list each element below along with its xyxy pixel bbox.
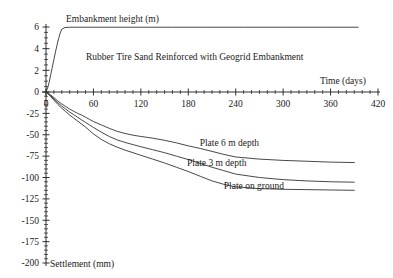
chart-container: 0601201802403003604202460-25-50-75-100-1… — [0, 0, 393, 278]
settlement-axis-title: Settlement (mm) — [50, 259, 114, 270]
y-lower-tick-label: -125 — [22, 194, 40, 204]
y-lower-tick-label: -100 — [22, 173, 40, 183]
settlement-time-chart: 0601201802403003604202460-25-50-75-100-1… — [0, 0, 393, 278]
x-tick-label: 60 — [89, 99, 99, 109]
y-lower-tick-label: -175 — [22, 237, 40, 247]
x-tick-label: 0 — [44, 99, 49, 109]
series-label-3: Plate on ground — [224, 181, 284, 191]
y-lower-tick-label: -150 — [22, 216, 40, 226]
x-tick-label: 180 — [181, 99, 196, 109]
embankment-height-axis-title: Embankment height (m) — [66, 14, 159, 25]
time-axis-title: Time (days) — [320, 76, 366, 87]
y-lower-tick-label: -25 — [26, 109, 39, 119]
y-lower-tick-label: -75 — [26, 151, 39, 161]
x-tick-label: 420 — [371, 99, 386, 109]
y-upper-tick-label: 4 — [34, 44, 39, 54]
x-tick-label: 120 — [134, 99, 149, 109]
y-lower-tick-label: -50 — [26, 130, 39, 140]
y-lower-tick-label: -200 — [22, 258, 40, 268]
chart-title: Rubber Tire Sand Reinforced with Geogrid… — [86, 52, 304, 62]
series-label-1: Plate 6 m depth — [200, 138, 260, 148]
annotations-group: Embankment height (m)Settlement (mm)Time… — [50, 14, 366, 270]
y-upper-tick-label: 6 — [34, 22, 39, 32]
y-upper-tick-label: 2 — [34, 66, 39, 76]
y-lower-tick-label: 0 — [34, 87, 39, 97]
series-label-2: Plate 3 m depth — [187, 158, 247, 168]
x-tick-label: 240 — [229, 99, 244, 109]
x-tick-label: 300 — [276, 99, 291, 109]
x-tick-label: 360 — [323, 99, 338, 109]
